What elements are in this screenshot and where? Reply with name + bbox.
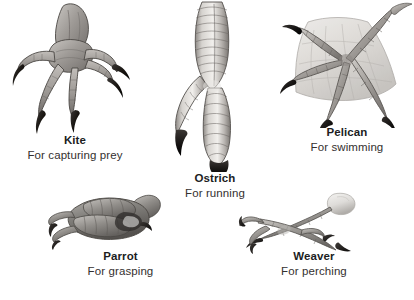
specimen-kite: Kite For capturing prey	[0, 0, 150, 175]
specimen-function-kite: For capturing prey	[0, 149, 150, 163]
specimen-name-parrot: Parrot	[48, 250, 193, 264]
specimen-parrot: Parrot For grasping	[48, 192, 193, 300]
raptor-talon-foot-illustration	[0, 0, 150, 140]
specimen-name-ostrich: Ostrich	[150, 172, 280, 186]
specimen-ostrich: Ostrich For running	[150, 0, 280, 205]
caption-parrot: Parrot For grasping	[48, 250, 193, 278]
zygodactyl-grasping-foot-illustration	[48, 192, 193, 250]
bird-feet-adaptations-figure: Kite For capturing prey	[0, 0, 414, 300]
specimen-function-parrot: For grasping	[48, 265, 193, 279]
specimen-function-weaver: For perching	[238, 265, 390, 279]
totipalmate-webbed-foot-illustration	[280, 0, 414, 128]
specimen-name-weaver: Weaver	[238, 250, 390, 264]
specimen-function-pelican: For swimming	[280, 141, 414, 155]
specimen-name-kite: Kite	[0, 134, 150, 148]
caption-pelican: Pelican For swimming	[280, 126, 414, 154]
caption-weaver: Weaver For perching	[238, 250, 390, 278]
caption-kite: Kite For capturing prey	[0, 134, 150, 162]
specimen-weaver: Weaver For perching	[238, 192, 390, 300]
specimen-pelican: Pelican For swimming	[280, 0, 414, 185]
anisodactyl-perching-foot-illustration	[238, 192, 390, 254]
didactyl-running-foot-illustration	[150, 0, 280, 172]
specimen-name-pelican: Pelican	[280, 126, 414, 140]
